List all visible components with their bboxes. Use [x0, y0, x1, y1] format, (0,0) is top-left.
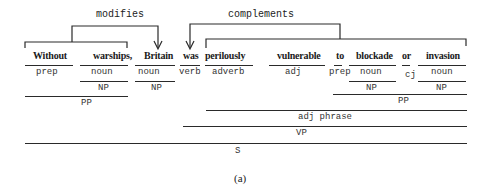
s-line: [25, 143, 467, 144]
parse-diagram: modifies complements Without warships, B…: [0, 0, 489, 195]
word-without: Without: [33, 50, 67, 61]
pos-was: verb: [179, 67, 201, 77]
pp-label-without: PP: [81, 98, 92, 108]
s-label: S: [235, 146, 240, 156]
np-label-britain: NP: [151, 83, 162, 93]
word-was: was: [183, 50, 199, 61]
np-label-invasion: NP: [436, 83, 447, 93]
word-invasion: invasion: [426, 50, 460, 61]
modifies-arrow-icon: [25, 26, 162, 49]
pos-to: prep: [329, 67, 351, 77]
pos-invasion: noun: [431, 67, 453, 77]
pos-warships: noun: [91, 67, 113, 77]
vp-line: [183, 126, 467, 127]
figure-caption: (a): [234, 172, 246, 184]
np-label-blockade: NP: [366, 83, 377, 93]
pp-label-to: PP: [398, 96, 409, 106]
word-blockade: blockade: [356, 50, 393, 61]
underline-or: [402, 65, 410, 66]
word-warships: warships,: [93, 50, 132, 61]
pos-without: prep: [36, 67, 58, 77]
pos-perilously: adverb: [212, 67, 244, 77]
pos-blockade: noun: [360, 67, 382, 77]
adj-phrase-label: adj phrase: [298, 112, 352, 122]
pos-or: cj: [405, 70, 416, 80]
word-vulnerable: vulnerable: [277, 50, 321, 61]
word-or: or: [402, 50, 411, 61]
pp-line-without: [25, 96, 128, 97]
pos-vulnerable: adj: [285, 67, 301, 77]
complements-arrow-icon: [186, 24, 466, 49]
word-britain: Britain: [144, 50, 173, 61]
word-perilously: perilously: [205, 50, 245, 61]
pos-britain: noun: [138, 67, 160, 77]
np-label-warships: NP: [98, 83, 109, 93]
vp-label: VP: [296, 128, 307, 138]
relation-arrows: [0, 0, 489, 195]
word-to: to: [336, 50, 344, 61]
